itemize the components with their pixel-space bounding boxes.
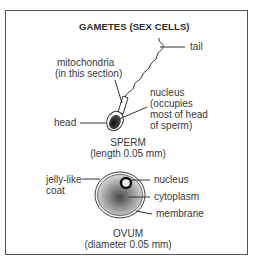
mitochondria-leader	[115, 80, 122, 103]
head-label: head	[54, 117, 76, 128]
ovum-nucleus	[121, 178, 131, 188]
mitochondria-label-1: mitochondria	[57, 57, 114, 68]
sperm-nucleus-label-1: nucleus	[150, 87, 184, 98]
tail-label: tail	[190, 41, 203, 52]
sperm-nucleus-label-3: most of head	[150, 109, 208, 120]
membrane-leader	[136, 211, 152, 214]
sperm-nucleus-label-4: of sperm)	[150, 120, 192, 131]
ovum-caption: OVUM	[100, 228, 156, 239]
sperm-nucleus-label-2: (occupies	[150, 98, 193, 109]
sperm-midpiece	[118, 96, 128, 114]
coat-label-2: coat	[46, 185, 65, 196]
cytoplasm-label: cytoplasm	[154, 191, 199, 202]
ovum-size: (diameter 0.05 mm)	[70, 239, 186, 250]
sperm-size: (length 0.05 mm)	[70, 148, 186, 159]
coat-label-1: jelly-like	[46, 174, 82, 185]
sperm-caption: SPERM	[100, 137, 156, 148]
ovum-nucleus-label: nucleus	[154, 174, 188, 185]
ovum-membrane	[98, 175, 143, 216]
mitochondria-label-2: (in this section)	[55, 68, 122, 79]
membrane-label: membrane	[156, 208, 204, 219]
